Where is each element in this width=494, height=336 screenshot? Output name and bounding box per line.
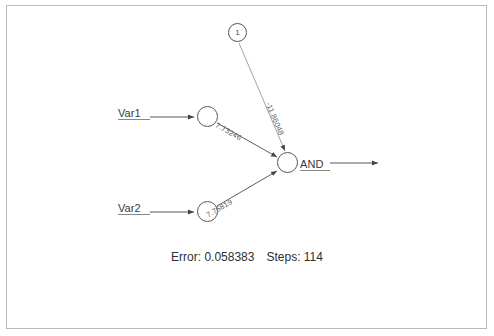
bias-node: 1 — [228, 23, 247, 42]
output-node-and — [277, 152, 298, 173]
neural-network-plot: 1 Var1 Var2 AND 7.73246 7.75819 -11.8604… — [0, 0, 494, 336]
network-canvas — [0, 0, 494, 336]
input-label-var2: Var2 — [118, 202, 141, 214]
steps-value: Steps: 114 — [266, 250, 322, 264]
output-label-and: AND — [300, 158, 324, 170]
footer-stats: Error: 0.058383Steps: 114 — [0, 250, 494, 264]
error-value: Error: 0.058383 — [171, 250, 254, 264]
bias-node-label: 1 — [235, 29, 239, 37]
input-label-var1: Var1 — [118, 107, 141, 119]
